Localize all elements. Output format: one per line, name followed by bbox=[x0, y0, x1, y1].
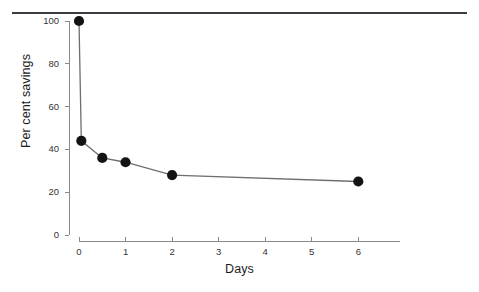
y-axis-tick-label: 20 bbox=[33, 186, 59, 197]
series-line bbox=[79, 21, 358, 182]
data-point-marker bbox=[97, 153, 107, 163]
figure-panel: 0204060801000123456 Per cent savings Day… bbox=[0, 0, 479, 292]
y-axis-tick-label: 80 bbox=[33, 58, 59, 69]
data-point-marker bbox=[353, 176, 363, 186]
x-axis-tick-label: 6 bbox=[348, 246, 368, 257]
x-axis-tick-label: 5 bbox=[302, 246, 322, 257]
y-axis-tick-label: 0 bbox=[33, 229, 59, 240]
x-axis-tick-label: 2 bbox=[162, 246, 182, 257]
y-axis-label: Per cent savings bbox=[19, 31, 33, 171]
x-axis-tick-label: 1 bbox=[116, 246, 136, 257]
x-axis-tick-label: 4 bbox=[255, 246, 275, 257]
x-axis-tick-label: 0 bbox=[69, 246, 89, 257]
x-axis-tick-label: 3 bbox=[209, 246, 229, 257]
y-axis-tick-label: 60 bbox=[33, 101, 59, 112]
x-axis-label: Days bbox=[0, 262, 479, 276]
data-point-marker bbox=[120, 157, 130, 167]
chart-series bbox=[74, 16, 364, 187]
y-axis-tick-label: 40 bbox=[33, 143, 59, 154]
chart-axes bbox=[65, 21, 400, 241]
data-point-marker bbox=[76, 136, 86, 146]
data-point-marker bbox=[167, 170, 177, 180]
y-axis-tick-label: 100 bbox=[33, 15, 59, 26]
data-point-marker bbox=[74, 16, 84, 26]
